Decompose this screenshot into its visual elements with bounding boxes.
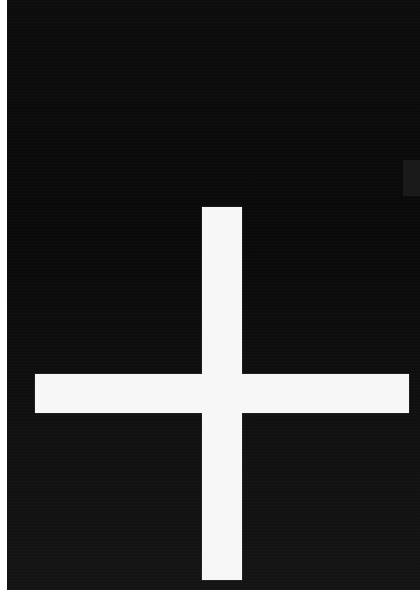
canvas xyxy=(0,0,420,590)
edge-shadow-patch xyxy=(403,160,420,196)
cross-horizontal-bar xyxy=(35,374,409,413)
